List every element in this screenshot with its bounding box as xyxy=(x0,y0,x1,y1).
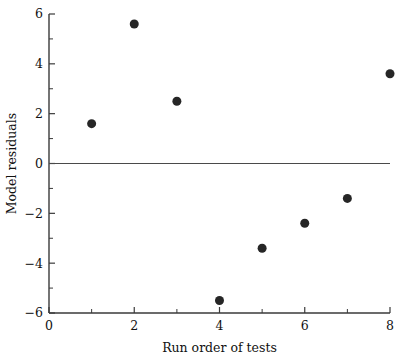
x-tick-label: 0 xyxy=(45,318,53,333)
y-tick-label: 0 xyxy=(35,156,43,171)
x-tick-label: 6 xyxy=(301,318,309,333)
chart-background xyxy=(0,0,405,359)
data-point xyxy=(300,219,309,228)
plot-svg: 6420−2−4−6 02468 Run order of tests Mode… xyxy=(0,0,405,359)
data-point xyxy=(87,119,96,128)
y-tick-label: −2 xyxy=(25,206,43,221)
residual-scatter-chart: 6420−2−4−6 02468 Run order of tests Mode… xyxy=(0,0,405,359)
data-point xyxy=(343,194,352,203)
data-point xyxy=(215,296,224,305)
data-point xyxy=(386,69,395,78)
data-point xyxy=(172,97,181,106)
y-tick-label: 4 xyxy=(35,56,43,71)
y-tick-label: 6 xyxy=(35,6,43,21)
x-tick-label: 2 xyxy=(130,318,138,333)
y-tick-label: 2 xyxy=(35,106,43,121)
y-tick-label: −4 xyxy=(25,256,43,271)
data-point xyxy=(130,19,139,28)
y-tick-label: −6 xyxy=(25,305,43,320)
y-axis-title: Model residuals xyxy=(4,113,19,214)
x-tick-label: 8 xyxy=(386,318,394,333)
data-point xyxy=(258,244,267,253)
x-axis-title: Run order of tests xyxy=(162,340,277,355)
x-tick-label: 4 xyxy=(216,318,224,333)
